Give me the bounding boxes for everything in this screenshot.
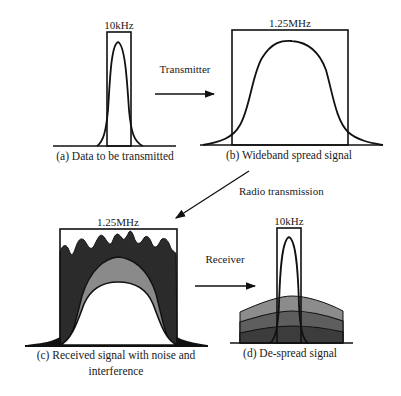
panel-c-received-signal: 1.25MHz (c) Received signal with noise a… [25, 216, 208, 377]
panel-a-bandwidth-label: 10kHz [104, 19, 133, 31]
receiver-label: Receiver [205, 253, 244, 265]
panel-d-despread-signal: 10kHz (d) De-spread signal [230, 215, 353, 360]
panel-c-caption-line2: interference [89, 365, 144, 377]
panel-b-signal-curve [203, 41, 383, 145]
panel-b-caption: (b) Wideband spread signal [226, 149, 352, 162]
panel-b-spread-signal: 1.25MHz (b) Wideband spread signal [200, 17, 383, 162]
radio-transmission-label: Radio transmission [239, 185, 324, 197]
panel-b-bandwidth-label: 1.25MHz [269, 17, 311, 29]
receiver-arrow: Receiver [195, 253, 255, 286]
panel-c-bandwidth-label: 1.25MHz [97, 216, 139, 228]
panel-c-caption-line1: (c) Received signal with noise and [37, 349, 196, 362]
panel-d-caption: (d) De-spread signal [243, 347, 337, 360]
panel-a-caption: (a) Data to be transmitted [56, 150, 174, 163]
panel-a-signal-curve [97, 42, 143, 146]
radio-transmission-arrow: Radio transmission [176, 171, 324, 218]
panel-a-data-signal: 10kHz (a) Data to be transmitted [53, 19, 176, 163]
spread-spectrum-diagram: 10kHz (a) Data to be transmitted Transmi… [0, 0, 401, 396]
transmitter-arrow: Transmitter [155, 63, 214, 94]
panel-d-bandwidth-label: 10kHz [274, 215, 303, 227]
transmitter-label: Transmitter [160, 63, 211, 75]
